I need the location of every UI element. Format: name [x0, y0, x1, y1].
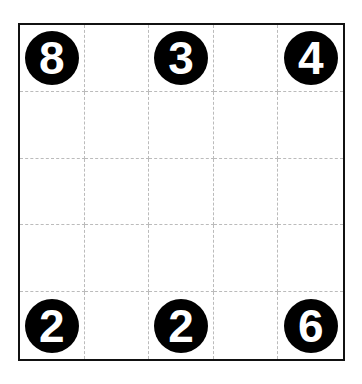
number-clue: 4	[284, 31, 338, 85]
grid-cell-r4c3[interactable]	[214, 292, 279, 359]
grid-cell-r3c4[interactable]	[278, 225, 343, 292]
grid-cell-r2c2[interactable]	[149, 159, 214, 226]
grid-cell-r1c1[interactable]	[85, 92, 150, 159]
grid-cell-r2c3[interactable]	[214, 159, 279, 226]
grid-cell-r2c0[interactable]	[20, 159, 85, 226]
grid-cell-r0c0[interactable]: 8	[20, 25, 85, 92]
grid-cell-r4c4[interactable]: 6	[278, 292, 343, 359]
grid-cell-r3c1[interactable]	[85, 225, 150, 292]
number-clue: 6	[284, 299, 338, 353]
grid-cell-r1c0[interactable]	[20, 92, 85, 159]
puzzle-board: 834226	[18, 23, 345, 361]
grid-cell-r0c4[interactable]: 4	[278, 25, 343, 92]
grid-cell-r3c0[interactable]	[20, 225, 85, 292]
grid-cell-r0c1[interactable]	[85, 25, 150, 92]
grid-cell-r3c2[interactable]	[149, 225, 214, 292]
number-clue: 8	[25, 31, 79, 85]
grid-cell-r1c2[interactable]	[149, 92, 214, 159]
puzzle-grid: 834226	[20, 25, 343, 359]
number-clue: 2	[25, 299, 79, 353]
grid-cell-r4c2[interactable]: 2	[149, 292, 214, 359]
grid-cell-r0c2[interactable]: 3	[149, 25, 214, 92]
number-clue: 3	[154, 31, 208, 85]
grid-cell-r2c4[interactable]	[278, 159, 343, 226]
grid-cell-r4c0[interactable]: 2	[20, 292, 85, 359]
grid-cell-r1c4[interactable]	[278, 92, 343, 159]
grid-cell-r1c3[interactable]	[214, 92, 279, 159]
grid-cell-r3c3[interactable]	[214, 225, 279, 292]
grid-cell-r0c3[interactable]	[214, 25, 279, 92]
grid-cell-r2c1[interactable]	[85, 159, 150, 226]
grid-cell-r4c1[interactable]	[85, 292, 150, 359]
number-clue: 2	[154, 299, 208, 353]
